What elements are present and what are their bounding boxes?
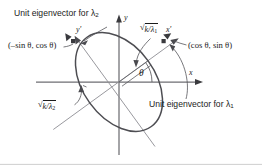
lambda1-point-leader xyxy=(174,41,187,45)
lambda2-point-leader xyxy=(64,44,74,47)
eigenvector-lambda1-marker xyxy=(162,39,166,43)
semi-axis-1-leader-arrowhead xyxy=(133,60,138,68)
eigenvector-ellipse-figure: Unit eigenvector for λ2 (–sin θ, cos θ) … xyxy=(0,0,262,165)
semi-axis-2-length-label: √k/λ2 xyxy=(38,100,56,111)
y-axis-arrowhead xyxy=(116,15,122,23)
primary-axes xyxy=(36,15,203,156)
semi-axis-1-radicand-text: k/λ xyxy=(145,25,155,34)
eigenvector-lambda2-arrowhead xyxy=(65,33,71,41)
lambda1-caption-leader-arrowhead xyxy=(169,44,175,51)
rotated-axes xyxy=(53,36,179,147)
semi-axis-2-radicand: k/λ2 xyxy=(43,100,57,111)
eigenvector-lambda2-marker xyxy=(71,39,75,43)
semi-axis-1-radicand-sub: 1 xyxy=(154,28,157,34)
x-prime-axis-line xyxy=(53,41,174,129)
semi-axis-2-radicand-sub: 2 xyxy=(52,105,55,111)
x-axis-arrowhead xyxy=(195,79,203,85)
figure-canvas xyxy=(0,0,262,165)
semi-axis-2-radicand-text: k/λ xyxy=(43,102,53,111)
semi-axis-1-inner-line xyxy=(119,61,148,82)
eigenvector-lambda1-arrowhead xyxy=(163,33,171,39)
semi-axis-2-leader-arrowhead xyxy=(78,85,84,92)
semi-axis-1-length-label: √k/λ1 xyxy=(140,23,158,34)
semi-axis-2-tick xyxy=(83,86,87,88)
semi-axis-1-leader-line xyxy=(136,39,151,64)
semi-axis-1-outer-line xyxy=(122,65,151,86)
semi-axis-1-radicand: k/λ1 xyxy=(145,23,159,34)
lambda1-caption-leader xyxy=(172,47,187,99)
